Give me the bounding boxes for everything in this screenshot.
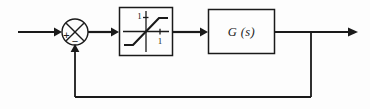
output-arrowhead: [348, 27, 358, 36]
saturation-block: 1 1: [120, 8, 173, 56]
summing-junction-plus-sign: +: [63, 29, 69, 41]
input-signal-wire: [18, 27, 62, 36]
block-diagram-svg: + − 1 1: [0, 0, 370, 109]
plant-block-label: G (s): [228, 25, 255, 39]
saturated-signal-wire: [173, 27, 208, 36]
saturation-horizontal-axis-label: 1: [158, 36, 163, 46]
plant-block: G (s): [209, 10, 275, 54]
summing-junction: + −: [62, 19, 88, 47]
output-signal-wire: [275, 27, 358, 36]
saturation-vertical-axis-label: 1: [137, 11, 142, 21]
saturated-signal-arrowhead: [200, 27, 208, 36]
error-signal-wire: [88, 27, 119, 36]
error-signal-arrowhead: [111, 27, 119, 36]
block-diagram-canvas: + − 1 1: [0, 0, 370, 109]
input-arrowhead: [54, 27, 62, 36]
